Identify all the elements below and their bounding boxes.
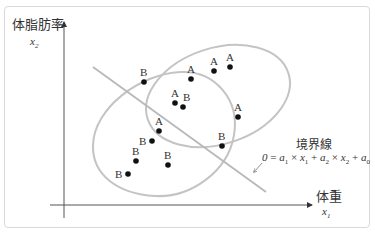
data-point-a [172,100,178,106]
data-point-b [165,162,171,168]
data-point-label: A [171,87,179,99]
data-point-b [125,171,131,177]
boundary-equation: 0 = a1 × x1 + a2 × x2 + a0 [262,151,370,166]
data-point-label: B [164,149,171,161]
data-point-b [133,158,139,164]
data-point-label: A [155,115,163,127]
x-axis-variable: x1 [322,205,330,220]
data-point-a [235,114,241,120]
data-point-b [141,79,147,85]
data-point-label: A [187,63,195,75]
data-point-b [149,138,155,144]
data-point-b [219,143,225,149]
y-axis-title: 体脂肪率 [12,14,64,33]
data-point-label: B [132,145,139,157]
data-point-label: B [139,135,146,147]
data-point-label: B [183,91,190,103]
data-point-a [156,128,162,134]
boundary-title: 境界線 [296,135,332,152]
boundary-pointer-arrow [254,163,262,172]
data-point-label: B [140,66,147,78]
group-a-ellipse [133,27,303,164]
data-point-label: A [210,55,218,67]
data-point-label: B [218,130,225,142]
data-point-label: A [234,101,242,113]
data-point-label: B [115,168,122,180]
data-point-a [211,68,217,74]
data-point-a [188,76,194,82]
data-point-b [180,104,186,110]
data-point-a [227,64,233,70]
data-point-label: A [226,51,234,63]
y-axis-variable: x2 [30,35,38,50]
x-axis-title: 体重 [316,186,342,205]
